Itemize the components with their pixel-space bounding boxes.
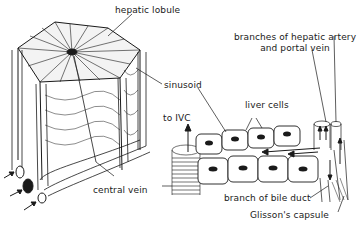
label-sinusoid: sinusoid	[164, 80, 202, 90]
label-bile-duct: branch of bile duct	[224, 193, 311, 203]
label-liver-cells: liver cells	[245, 100, 289, 110]
hepatic-lobule-diagram: hepatic lobule sinusoid central vein bra…	[0, 0, 358, 228]
upper-liver-cell-row	[196, 126, 300, 154]
label-central-vein: central vein	[93, 185, 148, 195]
label-glissons-capsule: Glisson's capsule	[250, 210, 329, 220]
vessel-opening-3	[38, 193, 46, 203]
label-branches-line2: and portal vein	[229, 43, 358, 53]
label-to-ivc: to IVC	[163, 113, 191, 123]
label-hepatic-lobule: hepatic lobule	[115, 5, 180, 15]
label-branches-line1: branches of hepatic artery	[229, 32, 358, 42]
central-vein-top	[67, 49, 77, 55]
vessel-opening-1	[16, 166, 24, 178]
vessel-opening-2	[23, 179, 33, 193]
central-vein-coil	[172, 145, 200, 195]
portal-triad	[314, 121, 348, 202]
